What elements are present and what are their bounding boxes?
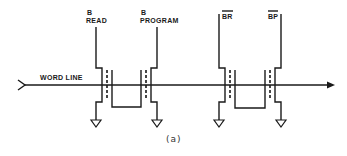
program-drain-wire <box>151 27 157 76</box>
floating-gate-link-right <box>235 106 265 108</box>
read-transistor: B READ <box>86 9 112 127</box>
word-line-label: WORD LINE <box>40 74 83 81</box>
ground-icon <box>152 120 162 127</box>
read-drain-wire <box>96 27 102 76</box>
read-source-wire <box>96 94 102 120</box>
figure-caption: (a) <box>166 134 182 144</box>
word-line: WORD LINE <box>18 74 335 90</box>
br-transistor: BR <box>214 11 235 127</box>
program-source-wire <box>151 94 157 120</box>
floating-gate-link-left <box>112 104 141 107</box>
program-bit-label: B <box>141 9 146 16</box>
ground-icon <box>91 120 101 127</box>
ground-icon <box>214 120 224 127</box>
word-line-input-chevron <box>18 80 25 90</box>
read-line-label: READ <box>86 17 107 24</box>
bp-drain-wire <box>275 14 281 76</box>
br-source-wire <box>219 94 225 120</box>
program-transistor: B PROGRAM <box>140 9 179 127</box>
ground-icon <box>276 120 286 127</box>
br-line-label: BR <box>222 13 233 20</box>
memory-cell-diagram: WORD LINE B READ B PROGRAM BR BP <box>0 0 347 156</box>
br-drain-wire <box>219 14 225 76</box>
read-bit-label: B <box>87 9 92 16</box>
bp-transistor: BP <box>265 11 286 127</box>
bp-line-label: BP <box>268 13 278 20</box>
bp-source-wire <box>275 94 281 120</box>
program-line-label: PROGRAM <box>140 17 179 24</box>
word-line-arrow-icon <box>327 82 335 89</box>
